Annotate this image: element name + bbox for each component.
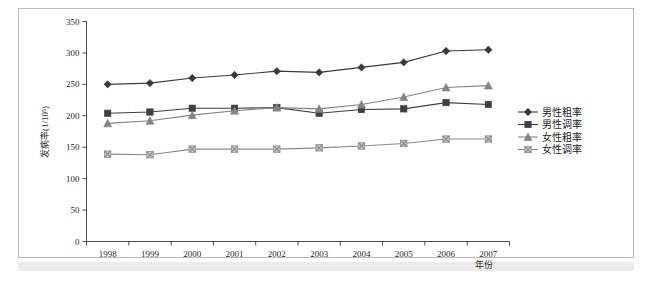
y-tick-label: 300 [66,48,80,58]
y-tick-label-group: 050100150200250300350 [66,17,80,247]
chart-legend: 男性粗率男性调率女性粗率女性调率 [518,106,582,156]
data-point [189,146,195,152]
series-1 [104,46,492,88]
data-point [400,59,407,66]
legend-label: 男性调率 [542,118,582,130]
legend-item-4[interactable]: 女性调率 [518,143,582,155]
data-point [104,81,111,88]
legend-marker [524,108,531,115]
x-tick-label: 2001 [226,249,244,259]
series-line [108,50,489,85]
y-tick-label: 200 [66,111,80,121]
data-point [485,136,491,142]
legend-item-2[interactable]: 男性调率 [518,118,582,130]
data-point [189,74,196,81]
x-tick-label: 2000 [183,249,202,259]
y-tick-label: 350 [66,17,80,27]
data-point [189,105,195,111]
data-point [104,151,110,157]
x-tick-label-group: 1998199920002001200220032004200520062007 [99,249,498,259]
data-point [485,101,491,107]
y-tick-label: 250 [66,79,80,89]
legend-label: 男性粗率 [542,106,582,118]
legend-label: 女性调率 [542,143,582,155]
y-tick-label: 100 [66,174,80,184]
y-tick-label: 150 [66,142,80,152]
legend-label: 女性粗率 [542,131,582,143]
data-point [231,71,238,78]
data-point [358,143,364,149]
data-point [315,69,322,76]
legend-marker [525,146,531,152]
legend-item-3[interactable]: 女性粗率 [518,131,582,143]
series-line [108,139,489,155]
legend-item-1[interactable]: 男性粗率 [518,106,582,118]
data-point [442,47,449,54]
data-point [273,67,280,74]
series-group [104,46,493,158]
y-axis-title: 发病率(1/10⁵) [39,106,50,158]
data-point [104,110,110,116]
data-point [358,64,365,71]
x-tick-label: 2005 [395,249,414,259]
x-tick-label: 2006 [437,249,456,259]
data-point [401,140,407,146]
data-point [147,109,153,115]
data-point [147,152,153,158]
data-point [231,146,237,152]
y-tick-group [83,22,87,242]
y-tick-label: 0 [75,237,80,247]
x-tick-label: 2002 [268,249,286,259]
data-point [316,145,322,151]
x-tick-label: 2007 [479,249,498,259]
data-point [401,106,407,112]
y-tick-label: 50 [71,205,81,215]
data-point [485,46,492,53]
legend-marker [525,121,531,127]
data-point [146,79,153,86]
x-tick-label: 2004 [352,249,371,259]
line-chart: 050100150200250300350 199819992000200120… [0,0,653,285]
x-tick-label: 2003 [310,249,329,259]
figure-page: 050100150200250300350 199819992000200120… [0,0,653,285]
x-tick-label: 1998 [99,249,118,259]
x-axis-title: 年份 [475,259,493,270]
x-tick-label: 1999 [141,249,160,259]
data-point [274,146,280,152]
data-point [443,136,449,142]
x-tick-group [87,242,510,246]
series-4 [104,136,491,158]
data-point [443,99,449,105]
